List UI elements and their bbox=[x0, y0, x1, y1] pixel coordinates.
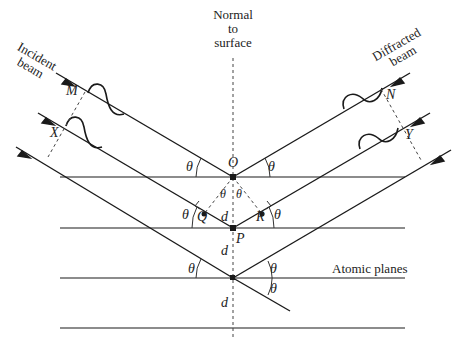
point-third bbox=[230, 275, 235, 280]
incident-ray-1 bbox=[56, 73, 233, 177]
spacing-d-2: d bbox=[221, 244, 228, 258]
label-O: O bbox=[228, 156, 238, 170]
arc-O-left bbox=[196, 158, 201, 177]
label-M: M bbox=[66, 84, 78, 98]
theta-3-right-upper: θ bbox=[270, 262, 277, 276]
spacing-d-3: d bbox=[221, 296, 228, 310]
normal-label-line2: to bbox=[205, 22, 261, 36]
theta-P-right: θ bbox=[274, 208, 281, 222]
arc-3-left bbox=[196, 259, 201, 278]
theta-O-left: θ bbox=[186, 160, 193, 174]
normal-label-line3: surface bbox=[205, 36, 261, 50]
diffracted-ray-3 bbox=[233, 150, 451, 278]
theta-3-left: θ bbox=[188, 262, 195, 276]
transmitted-ray bbox=[233, 278, 290, 311]
incident-beams bbox=[16, 73, 290, 311]
wave-packets bbox=[66, 84, 398, 149]
theta-P-left: θ bbox=[182, 208, 189, 222]
label-Q: Q bbox=[197, 210, 207, 224]
label-X: X bbox=[50, 126, 59, 140]
normal-label: Normal to surface bbox=[205, 8, 261, 50]
theta-inner-right: θ bbox=[236, 188, 242, 200]
line-OQ bbox=[204, 177, 233, 214]
bragg-diagram: Normal to surface Incident beam Diffract… bbox=[0, 0, 465, 346]
atomic-planes-label: Atomic planes bbox=[332, 262, 407, 275]
diffracted-wave-1 bbox=[343, 88, 382, 109]
point-O bbox=[230, 174, 236, 180]
label-R: R bbox=[256, 210, 265, 224]
spacing-d-1: d bbox=[221, 210, 228, 224]
diffracted-wave-2 bbox=[359, 128, 398, 149]
label-Y: Y bbox=[405, 128, 413, 142]
diffracted-beams bbox=[233, 73, 451, 278]
label-P: P bbox=[236, 232, 245, 246]
theta-inner-left: θ bbox=[220, 188, 226, 200]
theta-3-right-lower: θ bbox=[270, 282, 277, 296]
diffracted-ray-1 bbox=[233, 73, 410, 177]
theta-O-right: θ bbox=[268, 160, 275, 174]
normal-label-line1: Normal bbox=[205, 8, 261, 22]
label-N: N bbox=[386, 88, 395, 102]
